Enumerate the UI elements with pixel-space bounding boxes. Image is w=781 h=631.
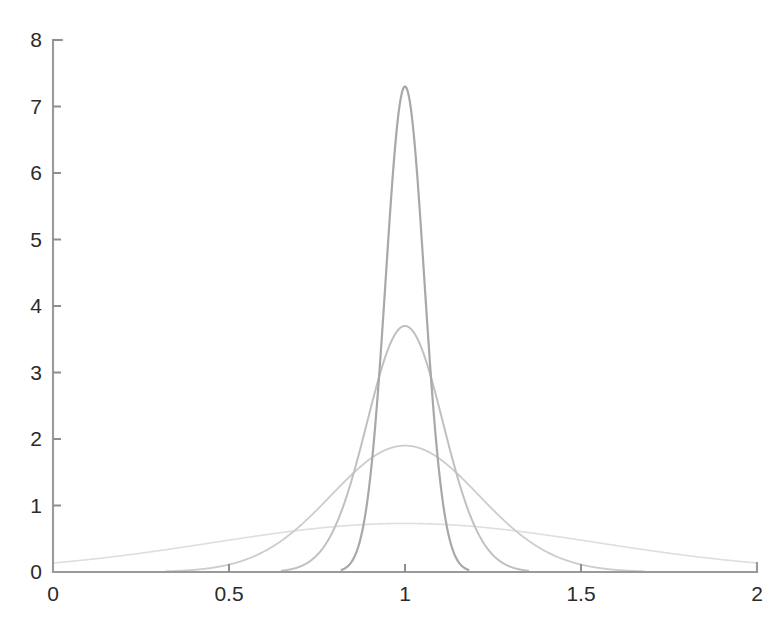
y-tick-label-7: 7 [30,95,42,118]
chart-figure: 01234567800.511.52 [0,0,781,631]
x-tick-label-1: 1 [399,582,411,605]
y-tick-label-5: 5 [30,228,42,251]
x-tick-label-0.5: 0.5 [214,582,243,605]
y-tick-label-3: 3 [30,361,42,384]
y-tick-label-1: 1 [30,494,42,517]
y-tick-label-0: 0 [30,560,42,583]
x-tick-label-1.5: 1.5 [566,582,595,605]
y-tick-label-6: 6 [30,161,42,184]
y-tick-label-8: 8 [30,28,42,51]
x-tick-label-2: 2 [751,582,763,605]
y-tick-label-2: 2 [30,427,42,450]
plot-canvas: 01234567800.511.52 [0,0,781,631]
figure-background [0,0,781,631]
y-tick-label-4: 4 [30,294,42,317]
x-tick-label-0: 0 [47,582,59,605]
